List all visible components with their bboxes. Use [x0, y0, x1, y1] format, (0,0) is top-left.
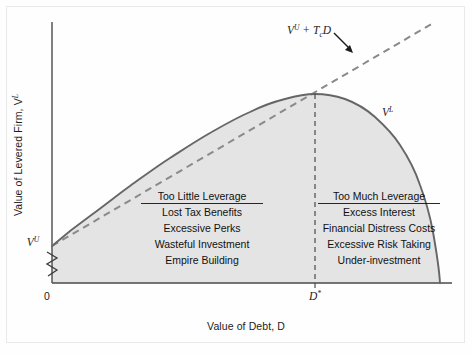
- too-much-leverage-line-2: Financial Distress Costs: [323, 222, 436, 234]
- vu-intercept-sup: U: [34, 235, 40, 244]
- vu-intercept-label: VU: [27, 235, 40, 248]
- y-axis-title-sup: L: [11, 94, 20, 99]
- too-little-leverage-line-1: Lost Tax Benefits: [162, 206, 242, 218]
- dstar-star: *: [317, 289, 321, 298]
- too-little-leverage-line-4: Empire Building: [165, 254, 239, 266]
- too-much-leverage-heading: Too Much Leverage: [333, 190, 425, 202]
- too-little-leverage-heading: Too Little Leverage: [158, 190, 247, 202]
- too-much-leverage-line-1: Excess Interest: [343, 206, 415, 218]
- vu-label-plus: +: [299, 24, 313, 36]
- svg-text:Value of Debt, D: Value of Debt, D: [207, 320, 285, 332]
- svg-text:VL: VL: [382, 105, 393, 118]
- annotation-arrow-icon: [334, 33, 353, 53]
- origin-tick-label: 0: [44, 290, 50, 302]
- y-axis-title-text: Value of Levered Firm, V: [12, 98, 24, 216]
- vl-curve-label: VL: [382, 105, 393, 118]
- y-axis-title: Value of Levered Firm, VL: [11, 94, 24, 216]
- x-axis-title: Value of Debt, D: [207, 320, 285, 332]
- vl-label-sup: L: [388, 105, 393, 114]
- too-much-leverage-line-3: Excessive Risk Taking: [327, 238, 431, 250]
- vu-plus-tcd-label: VU + TcD: [287, 23, 332, 39]
- dstar-tick-label: D*: [308, 289, 321, 302]
- svg-text:Value of Levered Firm, VL: Value of Levered Firm, VL: [11, 94, 24, 216]
- too-little-leverage-line-2: Excessive Perks: [163, 222, 240, 234]
- svg-text:VU: VU: [27, 235, 40, 248]
- too-little-leverage-line-3: Wasteful Investment: [155, 238, 250, 250]
- tradeoff-theory-chart: VU + TcD VL VU 0 D* Value of Debt, D: [0, 0, 472, 355]
- too-much-leverage-line-4: Under-investment: [338, 254, 421, 266]
- x-axis-title-text: Value of Debt, D: [207, 320, 285, 332]
- tcd-label-d: D: [322, 24, 332, 36]
- svg-text:D*: D*: [308, 289, 321, 302]
- figure-container: VU + TcD VL VU 0 D* Value of Debt, D: [0, 0, 472, 355]
- svg-text:VU + TcD: VU + TcD: [287, 23, 332, 39]
